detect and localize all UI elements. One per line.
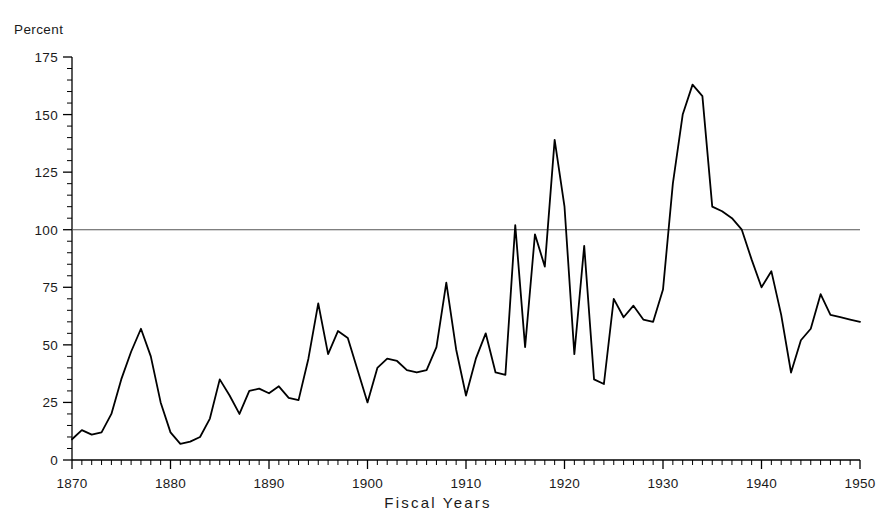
y-tick-label: 50 <box>42 338 58 353</box>
y-tick-label: 125 <box>35 165 58 180</box>
x-tick-label: 1940 <box>746 476 777 491</box>
x-axis-title: Fiscal Years <box>0 494 876 511</box>
y-tick-label: 25 <box>42 395 58 410</box>
y-tick-label: 150 <box>35 108 58 123</box>
y-tick-label: 100 <box>35 223 58 238</box>
y-tick-label: 0 <box>50 453 58 468</box>
line-chart-plot: 0255075100125150175 18701880189019001910… <box>0 0 876 530</box>
y-tick-label: 175 <box>35 50 58 65</box>
x-tick-label: 1950 <box>844 476 875 491</box>
x-tick-label: 1870 <box>56 476 87 491</box>
chart-container: Percent 0255075100125150175 187018801890… <box>0 0 876 530</box>
x-tick-label: 1930 <box>647 476 678 491</box>
x-tick-label: 1920 <box>549 476 580 491</box>
x-tick-label: 1890 <box>253 476 284 491</box>
x-tick-label: 1910 <box>450 476 481 491</box>
x-tick-label: 1880 <box>155 476 186 491</box>
y-tick-label: 75 <box>42 280 58 295</box>
x-tick-label: 1900 <box>352 476 383 491</box>
data-series-line <box>72 85 860 444</box>
y-axis: 0255075100125150175 <box>35 50 72 468</box>
x-axis: 187018801890190019101920193019401950 <box>56 460 875 491</box>
